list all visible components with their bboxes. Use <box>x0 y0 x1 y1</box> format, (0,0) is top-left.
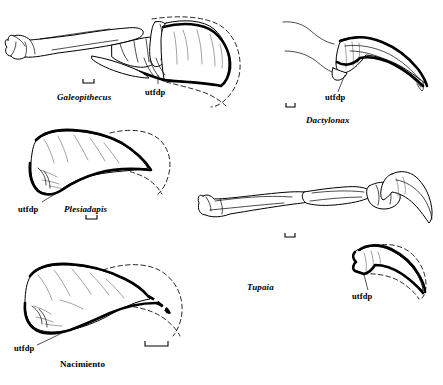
utfdp-label-galeopithecus: utfdp <box>145 88 165 97</box>
taxon-label-galeopithecus: Galeopithecus <box>57 93 111 102</box>
anatomical-figure-svg <box>0 0 443 385</box>
digit-contour-upper-dactylonax <box>283 22 334 44</box>
terminal-phalanx-plesiadapis <box>31 131 148 194</box>
scalebar-tupaia <box>285 233 295 237</box>
taxon-label-nacimiento: Nacimiento <box>60 360 105 369</box>
specimen-tupaia-digit <box>198 172 432 237</box>
digit-contour-lower-dactylonax <box>285 51 332 72</box>
utfdp-label-plesiadapis: utfdp <box>18 205 38 214</box>
utfdp-leader-tupaia-inset <box>364 275 368 290</box>
proximal-phalanx-tupaia <box>198 192 312 217</box>
taxon-label-plesiadapis: Plesiadapis <box>64 205 107 214</box>
utfdp-label-dactylonax: utfdp <box>325 93 345 102</box>
utfdp-label-nacimiento: utfdp <box>14 344 34 353</box>
scalebar-dactylonax <box>286 103 295 107</box>
reconstructed-tip-dashed-nacimiento <box>156 303 170 314</box>
taxon-label-tupaia: Tupaia <box>247 283 274 292</box>
middle-phalanx-tupaia <box>302 187 370 206</box>
scalebar-plesiadapis <box>86 215 97 219</box>
terminal-phalanx-galeopithecus <box>161 21 229 86</box>
specimen-dactylonax <box>283 22 427 107</box>
scalebar-nacimiento <box>145 341 168 346</box>
taxon-label-dactylonax: Dactylonax <box>306 116 350 125</box>
figure-container: Galeopithecus utfdp Dactylonax utfdp Ple… <box>0 0 443 385</box>
utfdp-label-tupaia: utfdp <box>352 292 372 301</box>
specimen-nacimiento <box>25 264 182 346</box>
specimen-galeopithecus <box>5 17 240 107</box>
scalebar-galeopithecus <box>83 79 94 83</box>
terminal-phalanx-tupaia-inset <box>353 246 423 291</box>
